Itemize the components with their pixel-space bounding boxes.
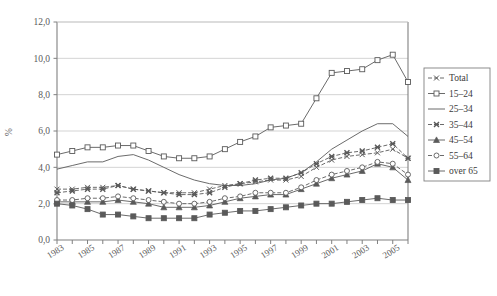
- marker-circle-open: [390, 161, 395, 166]
- marker-square-filled: [434, 169, 439, 174]
- marker-square-open: [238, 139, 243, 144]
- marker-square-open: [192, 156, 197, 161]
- marker-circle-open: [207, 199, 212, 204]
- series-35-44: [55, 141, 411, 197]
- marker-circle-open: [116, 194, 121, 199]
- marker-square-filled: [406, 198, 411, 203]
- line-chart-canvas: 0,02,04,06,08,010,012,0%1983198519871989…: [0, 0, 497, 296]
- marker-circle-open: [268, 190, 273, 195]
- marker-square-filled: [70, 203, 75, 208]
- marker-square-filled: [314, 201, 319, 206]
- marker-circle-open: [70, 198, 75, 203]
- legend-label: Total: [449, 73, 469, 83]
- x-tick-label-1989: 1989: [137, 242, 158, 260]
- y-tick-label-8: 8,0: [38, 90, 50, 100]
- marker-square-open: [222, 147, 227, 152]
- marker-circle-open: [192, 201, 197, 206]
- marker-circle-open: [100, 196, 105, 201]
- marker-square-open: [161, 154, 166, 159]
- marker-x: [390, 147, 395, 152]
- legend-label: 35–44: [449, 120, 473, 130]
- series-line: [57, 162, 408, 204]
- marker-square-filled: [268, 207, 273, 212]
- series-group: [54, 52, 411, 221]
- marker-circle-open: [406, 172, 411, 177]
- marker-square-open: [207, 154, 212, 159]
- y-tick-label-12: 12,0: [33, 17, 50, 27]
- x-tick-label-1987: 1987: [106, 242, 127, 260]
- marker-square-open: [253, 134, 258, 139]
- series-55-64: [55, 159, 411, 206]
- legend-label: over 65: [449, 166, 478, 176]
- marker-square-filled: [375, 196, 380, 201]
- y-axis-ticks: 0,02,04,06,08,010,012,0: [33, 17, 57, 245]
- marker-square-open: [390, 52, 395, 57]
- marker-square-open: [55, 152, 60, 157]
- series-line: [57, 149, 408, 193]
- marker-circle-open: [177, 201, 182, 206]
- chart-figure: 0,02,04,06,08,010,012,0%1983198519871989…: [0, 0, 497, 296]
- marker-square-filled: [207, 212, 212, 217]
- marker-circle-open: [238, 194, 243, 199]
- marker-square-filled: [238, 208, 243, 213]
- marker-circle-open: [85, 196, 90, 201]
- marker-square-open: [131, 143, 136, 148]
- y-tick-label-0: 0,0: [38, 235, 50, 245]
- legend-label: 15–24: [449, 89, 473, 99]
- series-line: [57, 124, 408, 186]
- marker-circle-open: [344, 168, 349, 173]
- marker-square-filled: [192, 216, 197, 221]
- marker-circle-open: [222, 196, 227, 201]
- y-tick-label-2: 2,0: [38, 199, 50, 209]
- marker-square-open: [329, 70, 334, 75]
- gridlines: [57, 22, 408, 204]
- marker-square-open: [116, 143, 121, 148]
- marker-square-open: [146, 148, 151, 153]
- marker-square-filled: [299, 203, 304, 208]
- series-line: [57, 55, 408, 159]
- x-tick-label-2003: 2003: [350, 242, 371, 260]
- marker-square-open: [314, 96, 319, 101]
- series-line: [57, 144, 408, 195]
- marker-circle-open: [434, 153, 439, 158]
- x-tick-label-1997: 1997: [259, 242, 280, 260]
- marker-square-open: [100, 145, 105, 150]
- x-tick-label-1993: 1993: [198, 242, 219, 260]
- legend-label: 45–54: [449, 135, 473, 145]
- marker-square-open: [268, 125, 273, 130]
- marker-square-open: [70, 148, 75, 153]
- marker-circle-open: [314, 178, 319, 183]
- marker-square-filled: [344, 199, 349, 204]
- marker-square-filled: [55, 201, 60, 206]
- marker-square-filled: [222, 210, 227, 215]
- x-tick-label-1985: 1985: [76, 242, 97, 260]
- marker-square-open: [434, 91, 439, 96]
- marker-square-open: [375, 58, 380, 63]
- marker-square-filled: [360, 198, 365, 203]
- marker-square-filled: [329, 201, 334, 206]
- x-tick-label-1995: 1995: [228, 242, 249, 260]
- legend-label: 25–34: [449, 104, 473, 114]
- marker-square-filled: [177, 216, 182, 221]
- x-tick-label-2005: 2005: [381, 242, 402, 260]
- marker-circle-open: [161, 199, 166, 204]
- marker-circle-open: [146, 198, 151, 203]
- y-axis-title: %: [4, 128, 14, 136]
- marker-square-filled: [85, 207, 90, 212]
- marker-circle-open: [299, 185, 304, 190]
- marker-square-filled: [116, 212, 121, 217]
- marker-square-open: [283, 123, 288, 128]
- marker-square-open: [85, 145, 90, 150]
- series-15-24: [55, 52, 411, 161]
- marker-square-filled: [161, 216, 166, 221]
- marker-circle-open: [375, 159, 380, 164]
- marker-circle-open: [283, 190, 288, 195]
- x-tick-label-2001: 2001: [320, 242, 341, 260]
- marker-square-open: [344, 69, 349, 74]
- y-tick-label-10: 10,0: [33, 54, 50, 64]
- marker-square-filled: [131, 214, 136, 219]
- marker-square-open: [177, 156, 182, 161]
- y-tick-label-4: 4,0: [38, 163, 50, 173]
- x-axis-ticks: 1983198519871989199119931995199719992001…: [45, 240, 408, 260]
- marker-circle-open: [329, 172, 334, 177]
